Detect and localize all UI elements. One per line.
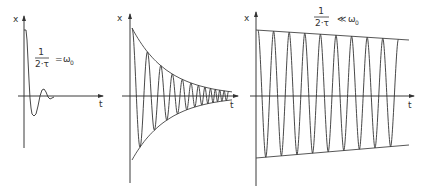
t-label-1: t <box>99 99 103 109</box>
response-curve-1 <box>24 30 54 116</box>
formula-3: 1 2·τ ≪ ω 0 <box>314 6 359 28</box>
formula-1-denominator: 2·τ <box>35 59 49 69</box>
lower-envelope-2 <box>132 100 232 160</box>
panel-weakly-damped: x t 1 2·τ ≪ ω 0 <box>244 6 414 186</box>
t-label-2: t <box>230 100 234 110</box>
formula-1-relation: = <box>55 54 63 64</box>
formula-1-numerator: 1 <box>38 47 44 57</box>
upper-envelope-2 <box>132 28 232 92</box>
formula-3-omega-sub: 0 <box>355 19 359 26</box>
t-label-3: t <box>408 100 412 110</box>
oscillation-curve-3 <box>258 30 398 157</box>
formula-1-omega-sub: 0 <box>70 59 74 66</box>
formula-3-denominator: 2·τ <box>315 18 329 28</box>
formula-3-numerator: 1 <box>318 6 324 16</box>
x-label-1: x <box>13 14 19 24</box>
oscillation-curve-2 <box>132 28 229 147</box>
formula-3-relation: ≪ <box>337 14 346 24</box>
panel-damped: x t <box>117 13 238 183</box>
x-label-3: x <box>244 13 250 23</box>
upper-envelope-3 <box>256 30 409 40</box>
formula-1: 1 2·τ = ω 0 <box>35 47 74 69</box>
x-label-2: x <box>117 13 123 23</box>
panel-critical: x t 1 2·τ = ω 0 <box>13 14 103 148</box>
lower-envelope-3 <box>256 145 409 158</box>
oscillation-figure: x t 1 2·τ = ω 0 x t x t 1 2·τ <box>0 0 425 193</box>
